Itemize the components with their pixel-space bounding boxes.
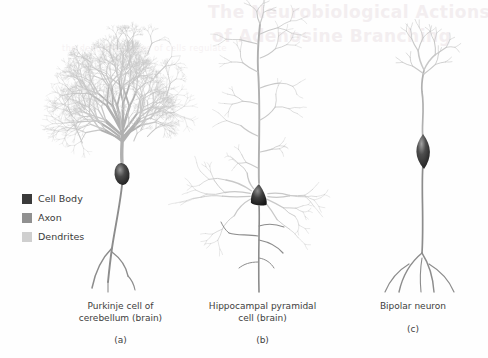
legend-swatch-dendrites: [22, 232, 32, 242]
neuron-figure: The Neurobiological Actions of Adenosine…: [0, 0, 488, 358]
caption-a-line1: Purkinje cell of: [48, 301, 193, 313]
legend-item-cell-body: Cell Body: [22, 190, 132, 207]
caption-b-letter: (b): [190, 335, 335, 347]
caption-a-letter: (a): [48, 335, 193, 347]
legend-item-dendrites: Dendrites: [22, 228, 132, 245]
pyramidal-dendrites: [169, 0, 330, 256]
legend: Cell Body Axon Dendrites: [22, 190, 132, 247]
caption-c-line1: Bipolar neuron: [348, 301, 478, 313]
caption-panel-c: Bipolar neuron (c): [348, 301, 478, 335]
purkinje-cell-illustration: [41, 22, 198, 292]
bipolar-cell-body: [416, 134, 430, 169]
purkinje-dendrites: [41, 22, 198, 162]
bipolar-dendrites: [396, 19, 461, 138]
pyramidal-cell-illustration: [169, 0, 330, 292]
caption-a-line2: cerebellum (brain): [48, 313, 193, 325]
caption-b-line1: Hippocampal pyramidal: [190, 301, 335, 313]
bipolar-axon: [385, 165, 454, 292]
legend-swatch-axon: [22, 213, 32, 223]
legend-item-axon: Axon: [22, 209, 132, 226]
legend-label-dendrites: Dendrites: [38, 231, 84, 242]
bipolar-neuron-illustration: [385, 19, 461, 292]
legend-label-cell-body: Cell Body: [38, 193, 83, 204]
caption-panel-a: Purkinje cell of cerebellum (brain) (a): [48, 301, 193, 347]
caption-b-line2: cell (brain): [190, 313, 335, 325]
legend-label-axon: Axon: [38, 212, 62, 223]
legend-swatch-cell-body: [22, 194, 32, 204]
caption-panel-b: Hippocampal pyramidal cell (brain) (b): [190, 301, 335, 347]
caption-c-letter: (c): [348, 324, 478, 336]
purkinje-cell-body: [113, 162, 130, 185]
